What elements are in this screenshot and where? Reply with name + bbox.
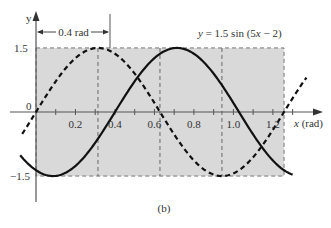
y-tick-neg-1-5: −1.5 — [10, 170, 30, 182]
arrow-left-icon — [37, 30, 43, 35]
arrow-right-icon — [103, 30, 109, 35]
y-axis-arrow-icon — [33, 11, 40, 21]
phase-shift-chart: 0.4 rad y 1.5 0 −1.5 y = 1.5 sin (5x − 2… — [0, 0, 331, 228]
y-tick-0: 0 — [26, 100, 32, 112]
x-axis-arrow-icon — [313, 109, 323, 116]
x-tick-label: 0.4 — [108, 118, 122, 130]
x-tick-label: 0.8 — [187, 118, 201, 130]
shift-label: 0.4 rad — [58, 26, 89, 38]
x-axis-label: x (rad) — [293, 117, 323, 130]
equation-label: y = 1.5 sin (5x − 2) — [197, 27, 282, 40]
x-tick-label: 0.6 — [148, 118, 162, 130]
x-tick-label: 1.0 — [227, 118, 241, 130]
y-tick-1-5: 1.5 — [14, 42, 28, 54]
x-tick-label: 1.2 — [266, 118, 280, 130]
x-tick-label: 0.2 — [69, 118, 83, 130]
figure-caption: (b) — [158, 202, 171, 215]
y-axis-label: y — [26, 12, 32, 24]
